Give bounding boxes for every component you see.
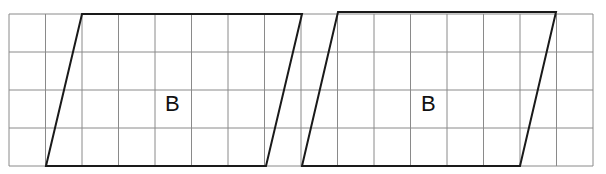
parallelogram-right <box>302 12 556 166</box>
grid-diagram <box>0 0 606 174</box>
shape-label-left: B <box>165 93 180 115</box>
shape-label-right: B <box>421 93 436 115</box>
grid-lines <box>9 14 593 166</box>
